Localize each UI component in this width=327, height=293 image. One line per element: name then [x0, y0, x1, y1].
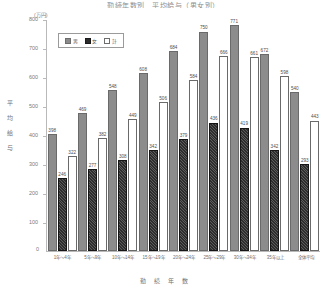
bar-value-label: 684 — [169, 45, 178, 51]
legend-label-female: 女 — [92, 37, 97, 44]
bar-女: 277 — [88, 169, 97, 251]
bar-value-label: 661 — [250, 52, 259, 58]
y-axis-title-char-2: 均 — [4, 111, 16, 126]
bar-value-label: 246 — [58, 172, 67, 178]
bar-計: 584 — [189, 80, 198, 251]
bar-value-label: 382 — [98, 133, 107, 139]
bar-group: 771419661 — [229, 20, 259, 251]
x-axis-tick-label: 25年～29年 — [199, 254, 229, 260]
x-axis-tick-label: 30年～34年 — [230, 254, 260, 260]
bar-group: 750436666 — [199, 20, 229, 251]
legend-label-male: 男 — [73, 37, 78, 44]
bar-女: 293 — [300, 164, 309, 251]
bar-計: 449 — [128, 119, 137, 251]
bar-女: 342 — [270, 150, 279, 251]
bar-group: 548308449 — [108, 20, 138, 251]
y-axis-title-char-4: 与 — [4, 141, 16, 156]
bar-value-label: 666 — [219, 50, 228, 56]
total-swatch-icon — [104, 38, 110, 44]
y-axis-tick-label: 500 — [29, 104, 38, 109]
x-axis-line — [46, 251, 320, 252]
bar-計: 322 — [68, 156, 77, 251]
bar-男: 771 — [230, 25, 239, 251]
x-axis-tick-label: 10年～14年 — [108, 254, 138, 260]
x-axis-tick-label: 1年～4年 — [47, 254, 77, 260]
bar-男: 469 — [78, 113, 87, 251]
male-swatch-icon — [65, 38, 71, 44]
y-axis-tick-label: 200 — [29, 191, 38, 196]
bar-女: 342 — [149, 150, 158, 251]
y-axis-title-char-3: 給 — [4, 126, 16, 141]
bar-男: 684 — [169, 51, 178, 251]
bar-計: 661 — [250, 57, 259, 251]
bar-value-label: 598 — [280, 70, 289, 76]
bar-value-label: 506 — [159, 97, 168, 103]
y-axis-zero-label: 0 — [36, 246, 39, 252]
bar-group: 398246322 — [47, 20, 77, 251]
bar-value-label: 771 — [230, 20, 239, 26]
bar-value-label: 419 — [240, 122, 249, 128]
y-axis-title: 平 均 給 与 — [4, 96, 16, 156]
chart-container: 勤続年数別 平均給与（男女別） (万円) 平 均 給 与 0 100200300… — [0, 0, 327, 293]
bar-groups: 3982463224692773825483084496083425066843… — [47, 20, 320, 251]
y-axis-title-char-1: 平 — [4, 96, 16, 111]
legend-item-total: 計 — [104, 37, 117, 44]
bar-value-label: 398 — [48, 128, 57, 134]
x-axis-tick-label: 全体平均 — [291, 254, 321, 260]
bar-value-label: 584 — [189, 74, 198, 80]
bar-計: 598 — [280, 76, 289, 251]
y-axis-tick-label: 300 — [29, 162, 38, 167]
x-axis-tick-label: 5年～9年 — [77, 254, 107, 260]
x-axis-tick-label: 35年以上 — [260, 254, 290, 260]
bar-男: 750 — [199, 32, 208, 252]
female-swatch-icon — [85, 38, 91, 44]
bar-group: 684379584 — [168, 20, 198, 251]
bar-男: 672 — [260, 54, 269, 251]
bar-group: 540293443 — [290, 20, 320, 251]
bar-value-label: 608 — [139, 67, 148, 73]
bar-value-label: 308 — [118, 154, 127, 160]
legend-item-female: 女 — [85, 37, 98, 44]
y-axis-tick-label: 400 — [29, 133, 38, 138]
bar-value-label: 293 — [300, 158, 309, 164]
y-axis-tick-label: 600 — [29, 75, 38, 80]
legend-label-total: 計 — [112, 37, 117, 44]
bar-女: 308 — [118, 160, 127, 251]
chart-title: 勤続年数別 平均給与（男女別） — [0, 0, 327, 8]
bar-計: 443 — [310, 121, 319, 251]
bar-value-label: 449 — [128, 113, 137, 119]
plot-area: 100200300400500600700800 398246322469277… — [46, 20, 320, 252]
x-axis-title: 勤続年数 — [0, 276, 327, 285]
bar-value-label: 342 — [149, 144, 158, 150]
bar-男: 398 — [48, 134, 57, 251]
y-axis-tick-label: 700 — [29, 46, 38, 51]
bar-value-label: 443 — [310, 115, 319, 121]
y-axis-tick-label: 100 — [29, 220, 38, 225]
y-axis-tick-label: 800 — [29, 17, 38, 22]
bar-value-label: 540 — [290, 87, 299, 93]
bar-group: 469277382 — [77, 20, 107, 251]
bar-男: 608 — [139, 73, 148, 251]
bar-value-label: 469 — [78, 107, 87, 113]
legend-item-male: 男 — [65, 37, 78, 44]
bar-value-label: 672 — [260, 49, 269, 55]
bar-value-label: 750 — [199, 26, 208, 32]
x-axis-tick-labels: 1年～4年5年～9年10年～14年15年～19年20年～24年25年～29年30… — [47, 254, 321, 260]
bar-value-label: 322 — [68, 150, 77, 156]
x-axis-tick-label: 15年～19年 — [138, 254, 168, 260]
bar-計: 382 — [98, 138, 107, 251]
bar-男: 548 — [108, 90, 117, 251]
bar-value-label: 548 — [108, 85, 117, 91]
bar-計: 666 — [219, 56, 228, 251]
bar-男: 540 — [290, 92, 299, 251]
bar-value-label: 379 — [179, 134, 188, 140]
bar-女: 419 — [240, 128, 249, 252]
bar-女: 379 — [179, 139, 188, 251]
bar-計: 506 — [159, 102, 168, 251]
bar-女: 246 — [58, 178, 67, 251]
bar-value-label: 277 — [88, 163, 97, 169]
bar-value-label: 436 — [209, 117, 218, 123]
x-axis-tick-label: 20年～24年 — [169, 254, 199, 260]
bar-group: 672342598 — [259, 20, 289, 251]
bar-group: 608342506 — [138, 20, 168, 251]
